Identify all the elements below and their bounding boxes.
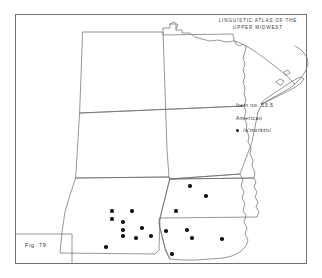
data-point	[188, 184, 191, 187]
data-point	[164, 229, 167, 232]
data-point	[130, 209, 133, 212]
data-point	[204, 194, 207, 197]
data-point	[121, 220, 124, 223]
data-point	[220, 237, 223, 240]
data-point	[110, 217, 113, 220]
data-point	[149, 234, 152, 237]
data-point	[170, 252, 173, 255]
data-point	[110, 209, 113, 212]
data-point	[190, 236, 193, 239]
data-point	[121, 228, 124, 231]
data-point	[104, 245, 107, 248]
data-point	[174, 209, 177, 212]
data-point	[121, 234, 124, 237]
data-point	[140, 226, 143, 229]
data-point-layer	[0, 0, 322, 278]
atlas-plate-page: LINGUISTIC ATLAS OF THE UPPER MIDWEST It…	[0, 0, 322, 278]
data-point	[134, 236, 137, 239]
data-point	[185, 228, 188, 231]
